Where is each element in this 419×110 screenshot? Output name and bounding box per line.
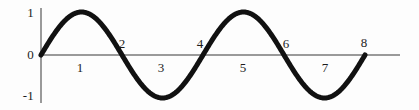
x-tick-label-8: 8 bbox=[354, 36, 374, 49]
x-tick-label-3: 3 bbox=[151, 61, 171, 74]
y-tick-label-1: 1 bbox=[12, 6, 34, 19]
sine-wave-figure: 1 0 -1 1 2 3 4 5 6 7 8 bbox=[0, 0, 419, 110]
y-tick-label-minus-1: -1 bbox=[12, 89, 34, 102]
x-tick-label-7: 7 bbox=[315, 61, 335, 74]
y-tick-label-0: 0 bbox=[12, 48, 34, 61]
x-tick-label-4: 4 bbox=[190, 37, 210, 50]
x-tick-label-2: 2 bbox=[112, 37, 132, 50]
x-tick-label-6: 6 bbox=[276, 37, 296, 50]
plot-canvas bbox=[0, 0, 419, 110]
x-tick-label-1: 1 bbox=[70, 61, 90, 74]
x-tick-label-5: 5 bbox=[233, 61, 253, 74]
